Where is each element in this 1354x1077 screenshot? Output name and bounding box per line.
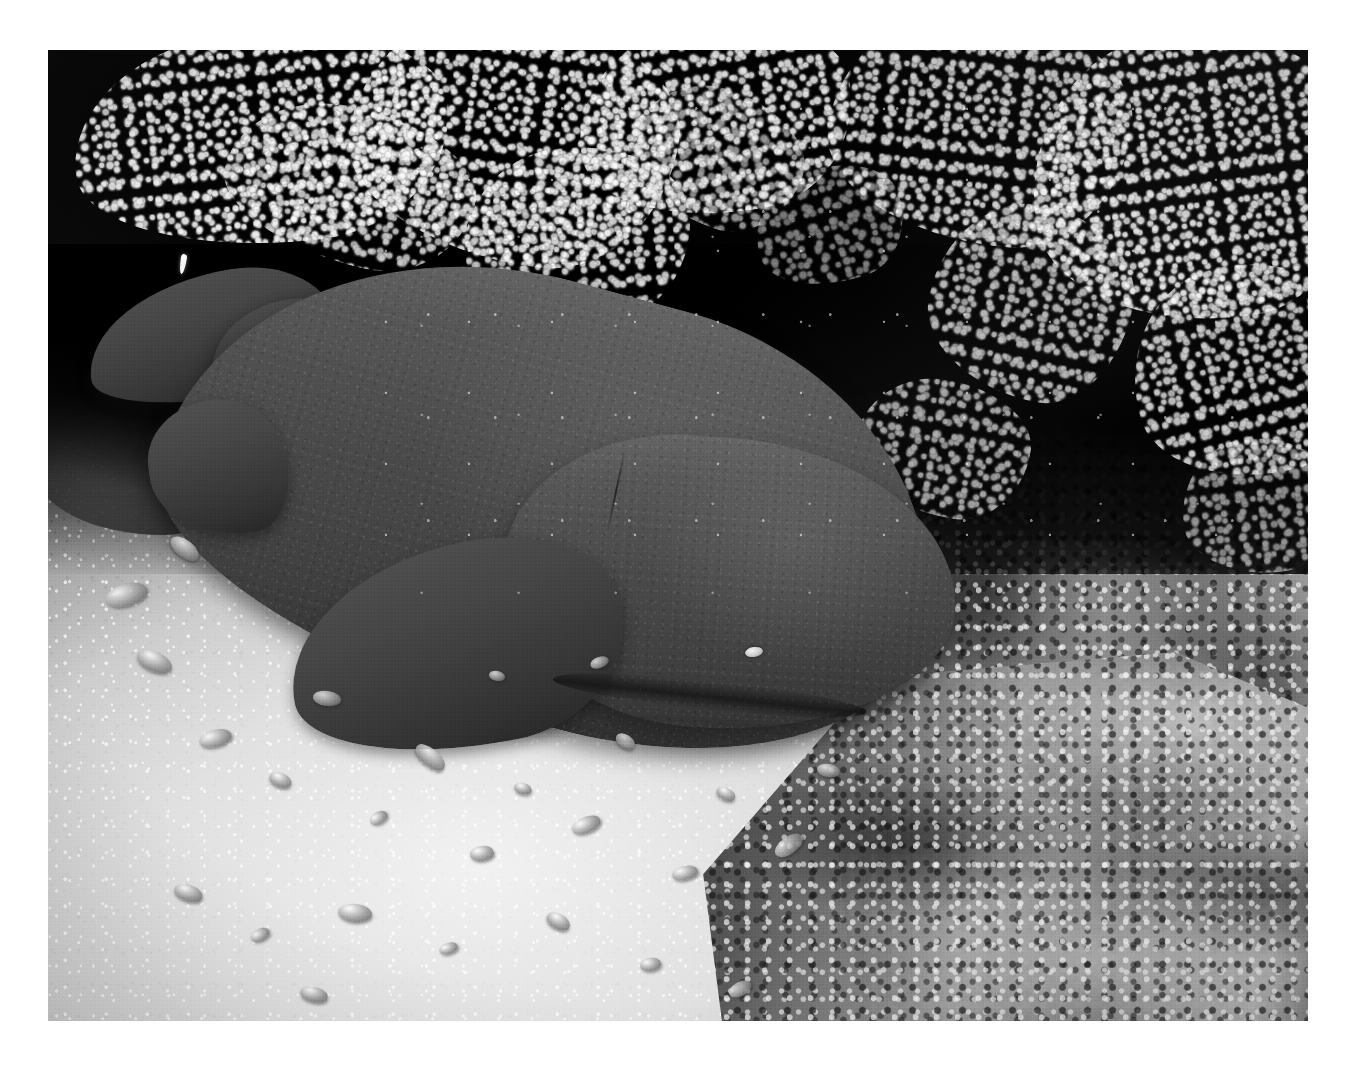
screenshot-root: nurse shark resting on sandy seafloor un… [0,0,1354,1077]
underwater-photograph [48,50,1308,1021]
